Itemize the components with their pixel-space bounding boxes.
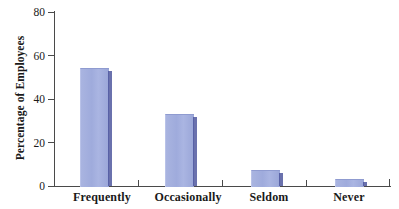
y-tick-label-20: 20 bbox=[5, 137, 45, 149]
x-label-occasionally: Occasionally bbox=[138, 190, 238, 205]
bar-never bbox=[335, 179, 363, 186]
bar-seldom bbox=[251, 170, 279, 185]
bar-face bbox=[80, 68, 109, 186]
x-tick-mark-3 bbox=[306, 180, 307, 187]
bar-chart: Percentage of Employees 80 60 40 20 0 Fr… bbox=[0, 0, 399, 209]
x-axis-end-tick bbox=[389, 179, 390, 187]
x-label-frequently: Frequently bbox=[56, 190, 148, 205]
bar-face bbox=[335, 179, 364, 187]
x-tick-mark-2 bbox=[222, 180, 223, 187]
y-tick-label-0: 0 bbox=[5, 180, 45, 192]
x-label-seldom: Seldom bbox=[228, 190, 310, 205]
bar-face bbox=[251, 170, 280, 186]
y-tick-label-60: 60 bbox=[5, 50, 45, 62]
bar-shadow bbox=[279, 173, 283, 185]
bar-occasionally bbox=[165, 114, 193, 186]
y-axis-line bbox=[54, 11, 55, 187]
x-tick-mark-1 bbox=[138, 180, 139, 187]
y-tick-label-80: 80 bbox=[5, 6, 45, 18]
bar-frequently bbox=[80, 68, 108, 185]
bar-face bbox=[165, 114, 194, 187]
x-label-never: Never bbox=[312, 190, 386, 205]
bar-shadow bbox=[193, 117, 197, 186]
bar-shadow bbox=[108, 71, 112, 185]
bar-shadow bbox=[363, 182, 367, 186]
y-tick-label-40: 40 bbox=[5, 93, 45, 105]
